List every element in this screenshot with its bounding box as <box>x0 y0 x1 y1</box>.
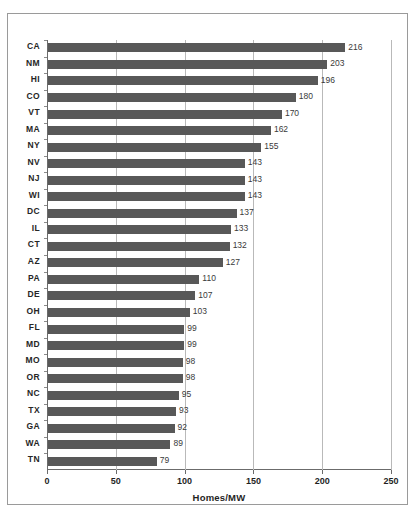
category-label-vt: VT <box>28 107 40 117</box>
value-label-tx: 93 <box>179 405 188 415</box>
bar-row: NC95 <box>47 387 391 404</box>
y-axis-tick <box>44 40 47 41</box>
x-tickmark-100 <box>185 470 186 474</box>
y-axis-tick <box>44 57 47 58</box>
x-tickmark-250 <box>391 470 392 474</box>
value-label-wa: 89 <box>173 438 182 448</box>
category-label-wa: WA <box>26 438 41 448</box>
y-axis-tick <box>44 437 47 438</box>
category-label-tx: TX <box>28 405 40 415</box>
value-label-fl: 99 <box>187 323 196 333</box>
bar-de <box>48 291 195 300</box>
x-tick-label-150: 150 <box>246 476 261 486</box>
category-label-ma: MA <box>26 124 40 134</box>
bar-oh <box>48 308 190 317</box>
value-label-nv: 143 <box>248 157 262 167</box>
x-axis-title: Homes/MW <box>47 492 391 503</box>
x-tick-label-250: 250 <box>383 476 398 486</box>
plot-area: CA216NM203HI196CO180VT170MA162NY155NV143… <box>47 40 391 470</box>
value-label-or: 98 <box>186 372 195 382</box>
value-label-il: 133 <box>234 223 248 233</box>
value-label-pa: 110 <box>202 273 216 283</box>
y-axis-tick <box>44 123 47 124</box>
bar-row: CO180 <box>47 90 391 107</box>
bar-nj <box>48 176 245 185</box>
y-axis-tick <box>44 288 47 289</box>
bar-row: MA162 <box>47 123 391 140</box>
bar-row: NJ143 <box>47 172 391 189</box>
bar-vt <box>48 110 282 119</box>
y-axis-tick <box>44 371 47 372</box>
x-tick-label-0: 0 <box>44 476 49 486</box>
bar-or <box>48 374 183 383</box>
y-axis-tick <box>44 255 47 256</box>
category-label-ga: GA <box>26 421 40 431</box>
x-tick-label-100: 100 <box>177 476 192 486</box>
bar-row: MD99 <box>47 338 391 355</box>
category-label-ca: CA <box>27 41 40 51</box>
bar-wa <box>48 440 170 449</box>
value-label-dc: 137 <box>240 207 254 217</box>
y-axis-tick <box>44 404 47 405</box>
bar-pa <box>48 275 199 284</box>
y-axis-tick <box>44 205 47 206</box>
x-tickmark-50 <box>116 470 117 474</box>
bar-row: PA110 <box>47 272 391 289</box>
category-label-co: CO <box>26 91 40 101</box>
bar-wi <box>48 192 245 201</box>
y-axis-tick <box>44 189 47 190</box>
category-label-ny: NY <box>27 140 40 150</box>
category-label-oh: OH <box>26 306 40 316</box>
bar-dc <box>48 209 237 218</box>
category-label-nj: NJ <box>28 173 40 183</box>
bar-row: AZ127 <box>47 255 391 272</box>
category-label-fl: FL <box>29 322 40 332</box>
bar-co <box>48 93 296 102</box>
bar-ma <box>48 126 271 135</box>
category-label-pa: PA <box>28 273 40 283</box>
chart-container: CA216NM203HI196CO180VT170MA162NY155NV143… <box>7 13 408 505</box>
y-axis-tick <box>44 453 47 454</box>
bar-row: DC137 <box>47 205 391 222</box>
value-label-az: 127 <box>226 257 240 267</box>
y-axis-tick <box>44 156 47 157</box>
bar-row: MO98 <box>47 354 391 371</box>
value-label-ct: 132 <box>233 240 247 250</box>
bar-nc <box>48 391 179 400</box>
y-axis-tick <box>44 106 47 107</box>
category-label-il: IL <box>32 223 40 233</box>
bar-nv <box>48 159 245 168</box>
value-label-hi: 196 <box>321 75 335 85</box>
bar-row: FL99 <box>47 321 391 338</box>
bar-row: CT132 <box>47 238 391 255</box>
value-label-nm: 203 <box>330 58 344 68</box>
x-tickmark-200 <box>322 470 323 474</box>
bar-az <box>48 258 223 267</box>
value-label-co: 180 <box>299 91 313 101</box>
gridline-250 <box>391 40 392 470</box>
bar-il <box>48 225 231 234</box>
value-label-nj: 143 <box>248 174 262 184</box>
bar-row: CA216 <box>47 40 391 57</box>
bar-nm <box>48 60 327 69</box>
category-label-hi: HI <box>31 74 40 84</box>
category-label-dc: DC <box>27 206 40 216</box>
value-label-ma: 162 <box>274 124 288 134</box>
category-label-wi: WI <box>29 190 40 200</box>
bar-md <box>48 341 184 350</box>
category-label-tn: TN <box>28 454 40 464</box>
category-label-md: MD <box>26 339 40 349</box>
value-label-oh: 103 <box>193 306 207 316</box>
x-tickmark-0 <box>47 470 48 474</box>
category-label-ct: CT <box>28 239 40 249</box>
bar-ny <box>48 143 261 152</box>
value-label-tn: 79 <box>160 455 169 465</box>
bar-row: HI196 <box>47 73 391 90</box>
y-axis-tick <box>44 305 47 306</box>
y-axis-tick <box>44 420 47 421</box>
category-label-de: DE <box>27 289 40 299</box>
x-tick-label-50: 50 <box>111 476 121 486</box>
bar-tn <box>48 457 157 466</box>
bar-ca <box>48 43 345 52</box>
value-label-ny: 155 <box>264 141 278 151</box>
